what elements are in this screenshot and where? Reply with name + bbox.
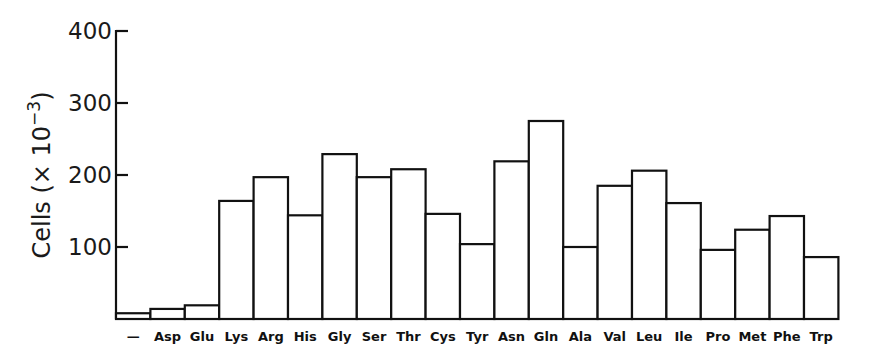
bar-asp	[150, 309, 184, 319]
x-tick-label: Gly	[328, 329, 352, 344]
bar-thr	[391, 169, 425, 319]
x-tick-label: Val	[604, 329, 627, 344]
y-tick-label: 400	[68, 18, 112, 44]
bar-gly	[322, 154, 356, 319]
bar-tyr	[460, 244, 494, 319]
x-tick-label: Arg	[258, 329, 284, 344]
x-tick-label: —	[127, 329, 140, 344]
x-tick-label: Asn	[498, 329, 525, 344]
bar-phe	[770, 216, 804, 319]
y-tick-label: 200	[68, 162, 112, 188]
bar-val	[598, 186, 632, 319]
x-tick-label: His	[294, 329, 317, 344]
bar-lys	[219, 201, 253, 319]
bar-chart: Cells (× 10−3) 100200300400 —AspGluLysAr…	[0, 0, 878, 361]
bars	[116, 121, 838, 319]
bar-cys	[426, 214, 460, 319]
y-axis: 100200300400	[68, 18, 128, 319]
x-tick-label: Met	[738, 329, 766, 344]
bar-met	[735, 230, 769, 319]
x-tick-label: Ala	[569, 329, 592, 344]
bar-ile	[666, 203, 700, 319]
bar-trp	[804, 257, 838, 319]
bar-glu	[185, 305, 219, 319]
bar-asn	[494, 161, 528, 319]
y-tick-label: 100	[68, 234, 112, 260]
x-tick-label: Tyr	[466, 329, 489, 344]
x-tick-label: Thr	[396, 329, 421, 344]
y-axis-label: Cells (× 10−3)	[24, 91, 56, 258]
x-tick-label: Trp	[810, 329, 833, 344]
bar-pro	[701, 250, 735, 319]
x-tick-label: Cys	[430, 329, 456, 344]
x-tick-label: Phe	[773, 329, 801, 344]
bar-leu	[632, 171, 666, 319]
x-tick-label: Ile	[675, 329, 693, 344]
bar-ser	[357, 177, 391, 319]
y-axis-title: Cells (× 10−3)	[24, 91, 56, 258]
x-tick-label: Leu	[636, 329, 662, 344]
x-axis-labels: —AspGluLysArgHisGlySerThrCysTyrAsnGlnAla…	[127, 329, 833, 344]
bar-ala	[563, 247, 597, 319]
x-tick-label: Gln	[534, 329, 558, 344]
bar-his	[288, 215, 322, 319]
bar-gln	[529, 121, 563, 319]
x-tick-label: Ser	[362, 329, 387, 344]
x-tick-label: Pro	[706, 329, 731, 344]
x-tick-label: Lys	[225, 329, 249, 344]
bar-arg	[254, 177, 288, 319]
x-tick-label: Glu	[190, 329, 214, 344]
x-tick-label: Asp	[154, 329, 181, 344]
y-tick-label: 300	[68, 90, 112, 116]
